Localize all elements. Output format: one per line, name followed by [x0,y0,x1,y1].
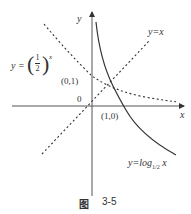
left-paren: ( [27,53,34,75]
point-label-1-0: (1,0) [101,112,118,121]
log-prefix: y=log [128,157,152,168]
logarithm-label: y=log1/2 x [128,158,167,170]
caption-prefix: 图 [79,196,89,211]
exponential-base-fraction: 1 2 [35,54,40,73]
caption-number: 3-5 [102,196,116,207]
x-axis-label: x [180,110,184,120]
logarithm-curve [96,22,176,155]
frac-denominator: 2 [36,65,40,73]
exponential-exponent: x [49,54,52,61]
identity-label: y=x [148,27,164,37]
identity-line [42,40,150,154]
frac-numerator: 1 [36,54,40,62]
log-base: 1/2 [152,164,160,170]
origin-label: 0 [77,95,82,104]
exponential-label-prefix: y = [11,61,25,71]
point-label-0-1: (0,1) [61,77,78,86]
log-arg: x [162,157,166,168]
y-axis-label: y [77,14,81,24]
